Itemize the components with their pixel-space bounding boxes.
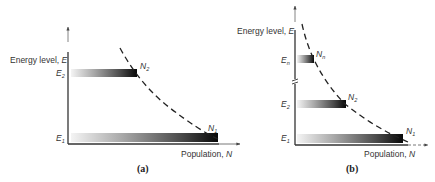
panel-a: Energy level, E E2 E1 N2 N1 Population, … [10,27,233,175]
x-axis-label-a: Population, N [181,149,233,159]
axis-break-icon-2 [292,79,298,81]
panel-caption-b: (b) [346,163,358,175]
energy-bar-en-b [297,55,314,63]
level-label-e1-a: E1 [56,133,65,144]
pop-label-n2-a: N2 [140,61,149,72]
energy-bar-e2-a [71,69,137,77]
level-label-en-b: En [281,55,290,66]
x-axis-label-b: Population, N [364,149,416,159]
boltzmann-curve-a [120,48,218,139]
boltzmann-curve-b [302,24,408,142]
pop-label-nn-b: Nn [316,49,325,60]
energy-bar-e1-b [297,134,403,143]
y-axis-label-b: Energy level, E [237,26,295,36]
level-label-e2-b: E2 [281,99,290,110]
y-axis-label-a: Energy level, E [10,55,68,65]
panel-b: Energy level, E En E2 E1 Nn N2 N1 Popula… [237,6,428,175]
pop-label-n2-b: N2 [348,92,357,103]
axis-break-icon [292,82,298,84]
level-label-e1-b: E1 [281,133,290,144]
pop-label-n1-b: N1 [406,126,415,137]
population-diagram: Energy level, E E2 E1 N2 N1 Population, … [0,0,435,182]
pop-label-n1-a: N1 [208,123,217,134]
energy-bar-e1-a [71,133,218,142]
level-label-e2-a: E2 [56,68,65,79]
energy-bar-e2-b [297,100,346,108]
panel-caption-a: (a) [137,163,149,175]
